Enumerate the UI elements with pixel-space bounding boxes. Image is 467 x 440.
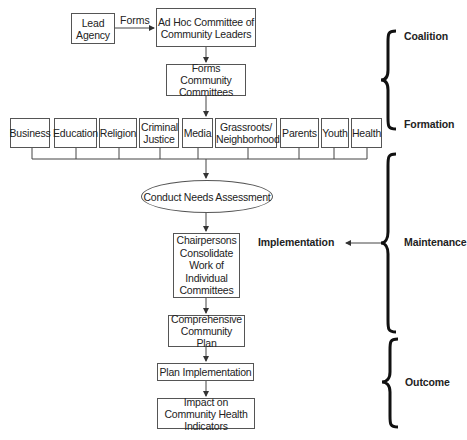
lead-agency-label: Lead Agency — [76, 17, 110, 41]
forms-edge-label: Forms — [120, 14, 150, 26]
forms-community-committees-label: Forms Community Committees — [168, 62, 244, 98]
committee-media: Media — [182, 118, 213, 148]
committee-label: Parents — [282, 127, 317, 139]
impact-label: Impact on Community Health Indicators — [158, 396, 254, 432]
committee-grassroots: Grassroots/ Neighborhood — [215, 118, 277, 148]
committee-label: Criminal Justice — [141, 121, 177, 145]
committee-label: Media — [184, 127, 212, 139]
phase-formation-label: Formation — [404, 118, 454, 130]
ad-hoc-committee-label: Ad Hoc Committee of Community Leaders — [158, 16, 254, 40]
needs-assessment-ellipse: Conduct Needs Assessment — [141, 180, 273, 213]
plan-implementation-label: Plan Implementation — [160, 366, 252, 378]
committee-label: Religion — [100, 127, 136, 139]
chairpersons-box: Chairpersons Consolidate Work of Individ… — [173, 233, 240, 298]
committee-label: Health — [352, 127, 381, 139]
committee-label: Grassroots/ Neighborhood — [216, 121, 276, 145]
committee-label: Business — [10, 127, 51, 139]
phase-outcome-label: Outcome — [405, 376, 450, 388]
lead-agency-box: Lead Agency — [71, 13, 115, 44]
committee-label: Youth — [322, 127, 347, 139]
phase-implementation-label: Implementation — [258, 236, 334, 248]
comprehensive-plan-label: Comprehensive Community Plan — [171, 313, 243, 349]
phase-maintenance-label: Maintenance — [404, 236, 467, 248]
forms-community-committees-box: Forms Community Committees — [166, 64, 246, 96]
committee-religion: Religion — [99, 118, 137, 148]
comprehensive-plan-box: Comprehensive Community Plan — [168, 315, 245, 347]
committee-youth: Youth — [321, 118, 349, 148]
committee-health: Health — [351, 118, 382, 148]
committee-business: Business — [10, 118, 50, 148]
committee-education: Education — [54, 118, 97, 148]
committee-label: Education — [53, 127, 98, 139]
committee-parents: Parents — [280, 118, 319, 148]
ad-hoc-committee-box: Ad Hoc Committee of Community Leaders — [156, 8, 256, 47]
phase-braces — [381, 31, 398, 427]
needs-assessment-label: Conduct Needs Assessment — [143, 191, 270, 203]
committee-criminal-justice: Criminal Justice — [139, 118, 179, 148]
chairpersons-label: Chairpersons Consolidate Work of Individ… — [177, 234, 237, 297]
phase-coalition-label: Coalition — [404, 30, 448, 42]
plan-implementation-box: Plan Implementation — [157, 363, 254, 381]
impact-box: Impact on Community Health Indicators — [157, 398, 255, 429]
